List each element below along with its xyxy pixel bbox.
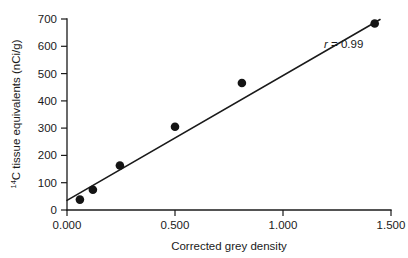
y-tick-label-300: 300	[38, 122, 57, 134]
y-tick-label-0: 0	[51, 204, 57, 216]
y-tick-label-500: 500	[38, 68, 57, 80]
data-point	[171, 122, 180, 131]
data-point	[76, 195, 85, 204]
x-axis-title: Corrected grey density	[171, 240, 287, 252]
x-tick-label-1-000: 1.000	[269, 219, 298, 231]
data-point	[370, 19, 379, 28]
x-axis: 0.000 0.500 1.000 1.500 Corrected grey d…	[53, 210, 406, 252]
y-tick-label-200: 200	[38, 149, 57, 161]
correlation-value: 0.99	[341, 38, 363, 50]
y-tick-label-600: 600	[38, 40, 57, 52]
svg-text:14C tissue equivalents (nCi/g): 14C tissue equivalents (nCi/g)	[9, 39, 22, 188]
y-axis-title-main: C tissue equivalents (nCi/g)	[10, 39, 22, 180]
scatter-plot: 700 600 500 400 300 200 100 0 14C tissue…	[0, 0, 408, 258]
y-axis: 700 600 500 400 300 200 100 0 14C tissue…	[9, 13, 67, 216]
y-tick-label-700: 700	[38, 13, 57, 25]
y-axis-title: 14C tissue equivalents (nCi/g)	[9, 39, 22, 188]
data-point	[238, 79, 247, 88]
y-tick-label-100: 100	[38, 177, 57, 189]
data-point	[89, 186, 98, 195]
chart-figure: 700 600 500 400 300 200 100 0 14C tissue…	[0, 0, 408, 258]
x-tick-label-0-000: 0.000	[53, 219, 82, 231]
correlation-annotation: r = 0.99	[324, 38, 363, 50]
y-tick-label-400: 400	[38, 95, 57, 107]
correlation-equals: =	[328, 38, 341, 50]
x-tick-label-1-500: 1.500	[377, 219, 406, 231]
y-axis-title-superscript: 14	[9, 180, 18, 188]
data-point	[116, 161, 125, 170]
x-tick-label-0-500: 0.500	[161, 219, 190, 231]
